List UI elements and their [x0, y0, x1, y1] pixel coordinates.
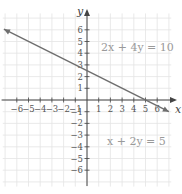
x-tick-label: 2 [108, 104, 113, 114]
y-tick-label: −6 [70, 165, 83, 175]
axes [2, 9, 177, 186]
y-tick-label: 5 [78, 37, 83, 47]
y-tick-label: 4 [78, 48, 83, 58]
x-tick-label: 1 [96, 104, 101, 114]
x-tick-label: 5 [143, 104, 148, 114]
y-tick-label: 1 [78, 83, 83, 93]
y-tick-label: −1 [70, 107, 83, 117]
y-tick-label: −4 [70, 142, 83, 152]
y-tick-label: −3 [70, 130, 83, 140]
equation-label-2: x + 2y = 5 [107, 135, 166, 148]
x-tick-label: −4 [34, 104, 47, 114]
x-tick-label: 4 [131, 104, 136, 114]
x-tick-label: 3 [119, 104, 124, 114]
y-tick-label: −5 [70, 154, 83, 164]
x-tick-label: −3 [46, 104, 59, 114]
x-tick-label: −5 [22, 104, 35, 114]
x-tick-label: −2 [57, 104, 70, 114]
x-axis-label: x [175, 103, 182, 116]
y-tick-label: −2 [70, 118, 83, 128]
coordinate-plane: −6−5−4−3−2−1123456−6−5−4−3−2−1123456 x y… [0, 0, 182, 194]
y-tick-label: 6 [78, 25, 83, 35]
equation-label-1: 2x + 4y = 10 [101, 41, 174, 54]
x-tick-label: −6 [11, 104, 24, 114]
y-axis-label: y [76, 5, 84, 18]
y-tick-label: 2 [78, 72, 83, 82]
y-axis-arrow-icon [84, 9, 90, 16]
